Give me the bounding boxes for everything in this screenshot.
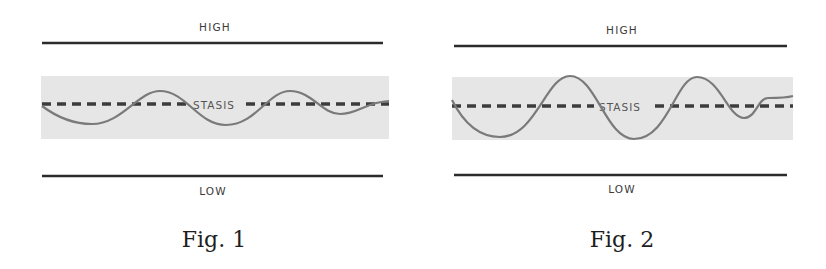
figure-caption: Fig. 2 <box>590 227 654 252</box>
stasis-label: STASIS <box>599 101 641 113</box>
low-label: LOW <box>199 185 227 197</box>
stasis-label: STASIS <box>193 99 235 111</box>
high-label: HIGH <box>606 24 638 36</box>
figure-1: HIGH STASIS LOW Fig. 1 <box>41 21 389 252</box>
high-label: HIGH <box>199 21 231 33</box>
low-label: LOW <box>608 183 636 195</box>
stasis-diagram: HIGH STASIS LOW Fig. 1 HIGH STASIS LOW F… <box>0 0 826 269</box>
figure-2: HIGH STASIS LOW Fig. 2 <box>452 24 793 252</box>
figure-caption: Fig. 1 <box>182 227 246 252</box>
